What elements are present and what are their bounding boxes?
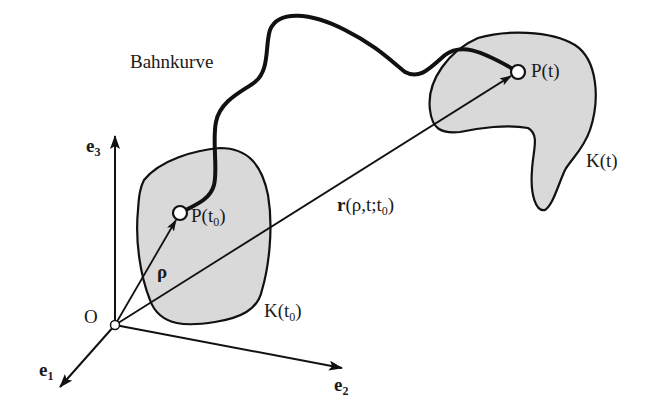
body-k-t0-label: K(t0) [264, 301, 302, 323]
point-p-t0-label: P(t0) [191, 206, 226, 228]
point-p-t0 [173, 206, 187, 220]
trajectory-label: Bahnkurve [130, 52, 213, 71]
origin-point [111, 321, 120, 330]
kinematics-diagram: Bahnkurve O e3 e1 e2 P(t0) P(t) ρ r(ρ,t;… [0, 0, 652, 415]
axis-e2-label: e2 [334, 375, 348, 397]
axis-e2-sub: 2 [342, 384, 348, 398]
axis-e2 [115, 325, 342, 368]
body-k-t-label: K(t) [586, 151, 618, 170]
vector-r-args: (ρ,t;t [345, 194, 381, 215]
point-p-t-label: P(t) [531, 61, 560, 80]
axis-e3-label: e3 [86, 136, 100, 158]
body-k-t0-close: ) [295, 300, 301, 321]
vector-rho-label: ρ [157, 262, 167, 281]
body-k-t0-base: K(t [264, 300, 289, 321]
axis-e1 [60, 325, 115, 387]
axis-e3-sub: 3 [94, 145, 100, 159]
point-p-t0-base: P(t [191, 205, 213, 226]
axis-e1-sub: 1 [47, 369, 53, 383]
origin-label: O [84, 307, 98, 326]
body-k-t [430, 33, 596, 210]
point-p-t0-close: ) [219, 205, 225, 226]
point-p-t [511, 65, 525, 79]
vector-r-close: ) [388, 194, 394, 215]
axis-e1-label: e1 [39, 360, 53, 382]
vector-r-label: r(ρ,t;t0) [337, 195, 394, 217]
